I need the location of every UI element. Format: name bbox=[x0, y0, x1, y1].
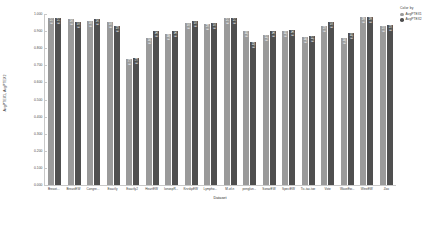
bar[interactable]: 0.950 bbox=[185, 23, 191, 185]
bar[interactable]: 0.975 bbox=[48, 18, 54, 185]
x-axis-tick-label: Congre... bbox=[83, 187, 103, 191]
bar[interactable]: 0.985 bbox=[360, 17, 366, 185]
bar-value-label: 0.898 bbox=[246, 30, 249, 38]
bar[interactable]: 0.860 bbox=[146, 38, 152, 185]
x-axis-tick-label: penglun... bbox=[240, 187, 260, 191]
bar[interactable]: 0.975 bbox=[231, 18, 237, 185]
bar[interactable]: 0.898 bbox=[282, 31, 288, 185]
bar-value-label: 0.975 bbox=[51, 17, 54, 25]
bar[interactable]: 0.955 bbox=[107, 22, 113, 185]
bar-value-label: 0.968 bbox=[97, 18, 100, 26]
bar-groups: 0.9750.9780.9680.9520.9580.9680.9550.932… bbox=[45, 14, 396, 185]
bar-value-label: 0.980 bbox=[370, 16, 373, 24]
x-axis-tick-label: BreastEW bbox=[64, 187, 84, 191]
y-axis-tick-label: 0.200 bbox=[34, 149, 45, 153]
bar[interactable]: 0.868 bbox=[302, 37, 308, 185]
bar-value-label: 0.900 bbox=[156, 29, 159, 37]
x-axis-tick-label: Vote bbox=[318, 187, 338, 191]
y-axis-tick-label: 0.100 bbox=[34, 166, 45, 170]
bar-value-label: 0.900 bbox=[175, 29, 178, 37]
bar-value-label: 0.930 bbox=[324, 24, 327, 32]
y-axis-tick-label: 0.300 bbox=[34, 132, 45, 136]
bar-value-label: 0.885 bbox=[168, 32, 171, 40]
bar-group: 0.9500.958 bbox=[182, 14, 202, 185]
bar-group: 0.9550.932 bbox=[104, 14, 124, 185]
x-axis-tick-label: Exactly2 bbox=[122, 187, 142, 191]
x-axis-tick-label: Breast... bbox=[44, 187, 64, 191]
bar[interactable]: 0.980 bbox=[367, 17, 373, 185]
bar[interactable]: 0.958 bbox=[87, 21, 93, 185]
x-axis-tick-label: IonospR... bbox=[161, 187, 181, 191]
bar-value-label: 0.978 bbox=[58, 16, 61, 24]
y-axis-tick-label: 0.500 bbox=[34, 98, 45, 102]
bar-group: 0.8980.838 bbox=[240, 14, 260, 185]
bar[interactable]: 0.938 bbox=[387, 25, 393, 185]
bar[interactable]: 0.838 bbox=[250, 42, 256, 185]
bar[interactable]: 0.908 bbox=[289, 30, 295, 185]
bar-value-label: 0.898 bbox=[285, 30, 288, 38]
bar[interactable]: 0.862 bbox=[341, 38, 347, 185]
y-axis-tick-label: 0.800 bbox=[34, 46, 45, 50]
bar[interactable]: 0.872 bbox=[309, 36, 315, 185]
bar[interactable]: 0.738 bbox=[126, 59, 132, 185]
bar[interactable]: 0.978 bbox=[55, 18, 61, 185]
bar[interactable]: 0.900 bbox=[172, 31, 178, 185]
bar-value-label: 0.838 bbox=[253, 40, 256, 48]
x-axis-tick-label: SonarEW bbox=[259, 187, 279, 191]
x-axis-tick-label: Lympho... bbox=[201, 187, 221, 191]
x-axis-tick-label: HeartEW bbox=[142, 187, 162, 191]
bar-value-label: 0.950 bbox=[214, 21, 217, 29]
x-axis-title: Dataset bbox=[44, 196, 396, 200]
bar[interactable]: 0.930 bbox=[321, 26, 327, 185]
bar[interactable]: 0.898 bbox=[243, 31, 249, 185]
bar[interactable]: 0.878 bbox=[263, 35, 269, 185]
bar[interactable]: 0.745 bbox=[133, 58, 139, 185]
x-axis-tick-label: SpectEW bbox=[279, 187, 299, 191]
bar[interactable]: 0.928 bbox=[380, 26, 386, 185]
bar-group: 0.8850.900 bbox=[162, 14, 182, 185]
bar[interactable]: 0.900 bbox=[153, 31, 159, 185]
bar[interactable]: 0.932 bbox=[114, 26, 120, 185]
bar[interactable]: 0.940 bbox=[204, 24, 210, 185]
plot-area: 0.0000.1000.2000.3000.4000.5000.6000.700… bbox=[44, 14, 396, 186]
bar[interactable]: 0.975 bbox=[224, 18, 230, 185]
bar-group: 0.9680.952 bbox=[65, 14, 85, 185]
legend-item-1[interactable]: AvgPTEX2 bbox=[400, 18, 444, 22]
bar-value-label: 0.860 bbox=[149, 36, 152, 44]
chart-container: Color by AvgPTEX1AvgPTEX2 AvgPTEX1, AvgP… bbox=[0, 0, 448, 232]
bar-value-label: 0.952 bbox=[78, 20, 81, 28]
bar[interactable]: 0.968 bbox=[94, 19, 100, 185]
x-axis-tick-label: KrvskpEW bbox=[181, 187, 201, 191]
bar-group: 0.9580.968 bbox=[84, 14, 104, 185]
bar[interactable]: 0.885 bbox=[165, 34, 171, 185]
bar-value-label: 0.868 bbox=[305, 35, 308, 43]
bar-value-label: 0.862 bbox=[344, 36, 347, 44]
bar-value-label: 0.975 bbox=[234, 17, 237, 25]
bar-group: 0.9280.938 bbox=[377, 14, 397, 185]
legend-title: Color by bbox=[400, 7, 444, 10]
legend-swatch-icon bbox=[400, 18, 404, 22]
legend-item-0[interactable]: AvgPTEX1 bbox=[400, 13, 444, 17]
legend-swatch-icon bbox=[400, 13, 404, 17]
bar[interactable]: 0.952 bbox=[328, 22, 334, 185]
x-axis-tick-label: WaveEw... bbox=[337, 187, 357, 191]
bar-group: 0.8980.908 bbox=[279, 14, 299, 185]
bar-value-label: 0.975 bbox=[227, 17, 230, 25]
bar[interactable]: 0.890 bbox=[348, 33, 354, 185]
bar[interactable]: 0.900 bbox=[270, 31, 276, 185]
bar[interactable]: 0.968 bbox=[68, 19, 74, 185]
bar-group: 0.9850.980 bbox=[357, 14, 377, 185]
bar-group: 0.7380.745 bbox=[123, 14, 143, 185]
bar[interactable]: 0.950 bbox=[211, 23, 217, 185]
bar[interactable]: 0.952 bbox=[75, 22, 81, 185]
y-axis-tick-label: 0.900 bbox=[34, 29, 45, 33]
y-axis-tick-label: 0.600 bbox=[34, 80, 45, 84]
bar-value-label: 0.955 bbox=[110, 20, 113, 28]
x-axis-tick-label: Zoo bbox=[377, 187, 397, 191]
x-axis-tick-label: WineEW bbox=[357, 187, 377, 191]
bar[interactable]: 0.958 bbox=[192, 21, 198, 185]
bar-group: 0.8620.890 bbox=[338, 14, 358, 185]
x-axis-tick-label: M-of-n bbox=[220, 187, 240, 191]
legend-item-label: AvgPTEX1 bbox=[406, 13, 422, 16]
y-axis-tick-label: 0.700 bbox=[34, 63, 45, 67]
